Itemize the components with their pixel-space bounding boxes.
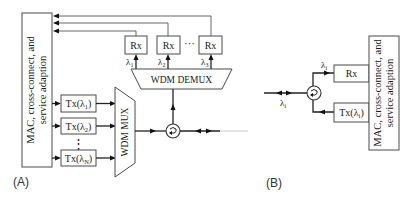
arrow-head-icon — [55, 124, 61, 129]
panel-b-label: (B) — [266, 176, 282, 190]
receiver-rx2: Rx — [157, 36, 180, 54]
arrow-head-icon — [319, 110, 325, 115]
arrow-head-icon — [53, 29, 59, 34]
mac-box-b-line1: MAC, cross-connect, and — [372, 39, 383, 147]
rx2-label: Rx — [163, 40, 175, 51]
rx-feedback-lines — [53, 14, 211, 37]
lambda1-label: λ1 — [126, 57, 133, 68]
transmitter-tx2: Tx(λ2) — [52, 118, 116, 134]
arrow-head-icon — [206, 129, 212, 134]
receiver-rx-b: Rx — [334, 65, 369, 82]
panel-a: MAC, cross-connect, and service adaption… — [13, 13, 248, 189]
mac-box-a-line2: service adaption — [37, 55, 48, 124]
demux-output-arrows: λ1 λ2 λ3 — [126, 54, 214, 69]
mac-box-a: MAC, cross-connect, and service adaption — [22, 13, 52, 167]
lambda3-label: λ3 — [201, 57, 208, 68]
panel-b: λi λi Rx Tx(λi) — [264, 36, 399, 190]
arrow-head-icon — [286, 91, 292, 96]
mac-box-a-line1: MAC, cross-connect, and — [25, 36, 36, 144]
transmitter-tx-b: Tx(λi) — [334, 103, 369, 122]
txn-label: Tx(λN) — [65, 153, 92, 165]
arrow-head-icon — [195, 129, 201, 134]
arrow-head-icon — [53, 21, 59, 26]
arrow-head-icon — [209, 54, 214, 60]
receiver-rx3: Rx — [199, 36, 222, 54]
arrow-head-icon — [324, 71, 330, 76]
arrow-head-icon — [150, 129, 156, 134]
circulator-icon — [307, 86, 321, 100]
rx-ellipsis: ··· — [184, 37, 195, 49]
rx3-label: Rx — [205, 40, 217, 51]
tx-ellipsis: ⋮ — [72, 136, 85, 151]
arrow-head-icon — [166, 54, 171, 60]
wdm-demux-label: WDM DEMUX — [151, 75, 213, 85]
mac-box-b: MAC, cross-connect, and service adaption — [369, 36, 399, 150]
arrow-head-icon — [53, 14, 59, 19]
circulator-to-rx: λi — [313, 60, 334, 86]
wdm-mux-label: WDM MUX — [120, 107, 130, 156]
tx-to-circulator — [313, 100, 334, 115]
wdm-node-diagram: MAC, cross-connect, and service adaption… — [0, 0, 419, 205]
arrow-head-icon — [55, 101, 61, 106]
arrow-head-icon — [276, 91, 282, 96]
circulator-b — [307, 86, 321, 100]
rx1-label: Rx — [130, 40, 142, 51]
arrow-head-icon — [171, 104, 176, 110]
mux-to-circulator — [135, 129, 166, 134]
lambda2-label: λ2 — [158, 57, 165, 68]
tx-b-label: Tx(λi) — [339, 107, 363, 119]
circulator-a — [166, 89, 248, 138]
transmitter-tx1: Tx(λ1) — [52, 95, 116, 112]
receiver-rx1: Rx — [125, 36, 147, 54]
fiber-lambda-label: λi — [280, 98, 286, 109]
circulator-icon — [166, 124, 180, 138]
tx1-label: Tx(λ1) — [66, 98, 92, 110]
rx-b-label: Rx — [346, 68, 358, 79]
tx2-label: Tx(λ2) — [66, 121, 92, 133]
arrow-head-icon — [55, 156, 61, 161]
fiber-b: λi — [264, 91, 307, 110]
arrow-head-icon — [134, 54, 139, 60]
mac-box-b-line2: service adaption — [384, 58, 395, 127]
rx-lambda-label: λi — [321, 60, 327, 71]
wdm-demux: WDM DEMUX — [131, 69, 232, 89]
transmitter-txn: Tx(λN) — [52, 150, 116, 166]
panel-a-label: (A) — [13, 175, 29, 189]
wdm-mux: WDM MUX — [115, 87, 135, 177]
